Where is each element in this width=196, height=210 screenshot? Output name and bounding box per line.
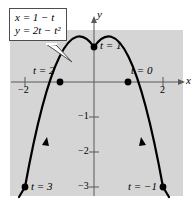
label-t-equals-0: t = 0 <box>131 64 152 76</box>
x-tick-label-minus-2: −2 <box>18 84 29 95</box>
plot-background <box>10 30 183 196</box>
point-t-equals-1 <box>91 44 98 51</box>
y-tick-label-minus-2: −2 <box>78 145 89 156</box>
label-t-equals-2: t = 2 <box>33 64 54 76</box>
point-t-equals-minus-1 <box>160 184 167 191</box>
equation-y-line: y = 2t − t² <box>15 24 61 37</box>
x-tick-label-2: 2 <box>160 84 165 95</box>
point-t-equals-3 <box>22 184 29 191</box>
y-axis-label: y <box>97 8 102 20</box>
label-t-equals-1: t = 1 <box>100 39 121 51</box>
y-tick-label-minus-3: −3 <box>78 180 89 191</box>
equation-x-line: x = 1 − t <box>15 11 61 24</box>
equation-callout-box: x = 1 − t y = 2t − t² <box>9 8 67 41</box>
equation-x-text: x = 1 − t <box>15 11 54 23</box>
parametric-curve-figure: x = 1 − t y = 2t − t² x y −2 2 −1 −2 −3 … <box>0 0 196 210</box>
y-tick-label-minus-1: −1 <box>78 110 89 121</box>
x-axis-label: x <box>186 74 191 86</box>
label-t-equals-minus-1: t = −1 <box>128 180 157 192</box>
point-t-equals-2 <box>57 79 64 86</box>
label-t-equals-3: t = 3 <box>31 180 52 192</box>
equation-y-text: y = 2t − t² <box>15 24 61 36</box>
point-t-equals-0 <box>125 79 132 86</box>
